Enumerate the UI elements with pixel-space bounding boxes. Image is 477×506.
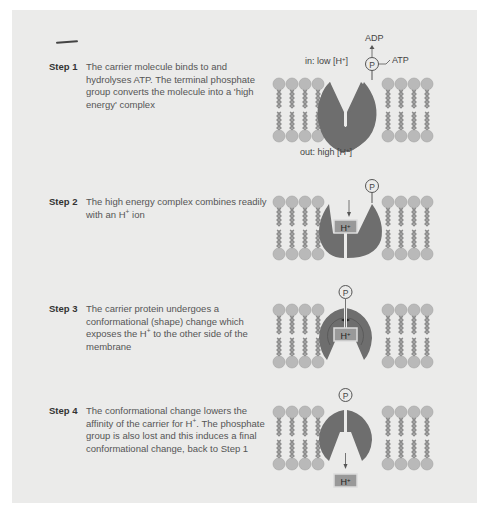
carrier-protein: [319, 410, 344, 461]
svg-text:P: P: [369, 60, 375, 70]
inside-label: in: low [H+]: [305, 56, 348, 66]
svg-text:P: P: [343, 288, 349, 298]
step-2-diagram: H+ P: [273, 180, 433, 261]
svg-text:P: P: [369, 182, 375, 192]
adp-label: ADP: [365, 33, 384, 43]
outside-label: out: high [H+]: [300, 147, 352, 157]
svg-text:P: P: [343, 391, 349, 401]
step-1-diagram: P ATP ADP in: low [H+] out: high [H+]: [273, 33, 433, 157]
step-4-diagram: P H+: [273, 389, 433, 488]
atp-label: ATP: [392, 55, 409, 65]
proton-pump-diagram: P ATP ADP in: low [H+] out: high [H+] H+…: [0, 0, 477, 506]
step-3-diagram: H+ P: [273, 286, 433, 369]
